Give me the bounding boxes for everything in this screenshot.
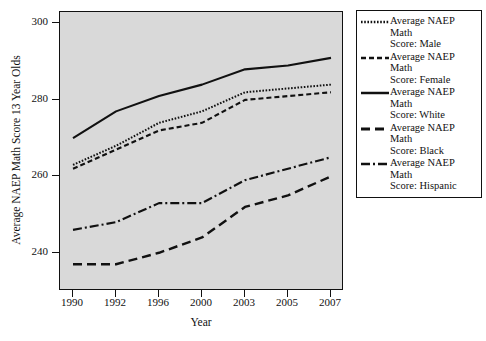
x-axis-title: Year xyxy=(59,316,343,328)
chart-figure: 240260280300 199019921996200020032005200… xyxy=(0,0,486,341)
legend-label-line2: Score: Male xyxy=(390,38,478,50)
legend-line-sample-icon xyxy=(360,15,390,28)
series-line-white xyxy=(73,58,331,138)
legend-label-line2: Score: Female xyxy=(390,74,478,86)
legend-item-female[interactable]: Average NAEP MathScore: Female xyxy=(360,51,478,86)
series-line-hispanic xyxy=(73,157,331,230)
legend-label-line1: Average NAEP Math xyxy=(390,122,478,145)
legend-item-male[interactable]: Average NAEP MathScore: Male xyxy=(360,15,478,50)
x-tick-label: 1990 xyxy=(49,297,95,308)
legend-label-line2: Score: White xyxy=(390,109,478,121)
legend-label-line1: Average NAEP Math xyxy=(390,86,478,109)
y-tick-mark xyxy=(52,252,59,253)
legend-item-white[interactable]: Average NAEP MathScore: White xyxy=(360,86,478,121)
legend-item-label: Average NAEP MathScore: Hispanic xyxy=(390,157,478,192)
y-tick-mark xyxy=(52,99,59,100)
x-tick-label: 1992 xyxy=(92,297,138,308)
y-tick-label: 300 xyxy=(14,16,48,27)
x-tick-label: 2005 xyxy=(264,297,310,308)
x-tick-label: 2007 xyxy=(307,297,353,308)
legend-label-line2: Score: Hispanic xyxy=(390,180,478,192)
series-line-female xyxy=(73,92,331,168)
y-tick-mark xyxy=(52,22,59,23)
legend-label-line1: Average NAEP Math xyxy=(390,15,478,38)
legend-line-sample-icon xyxy=(360,157,390,170)
legend-item-black[interactable]: Average NAEP MathScore: Black xyxy=(360,122,478,157)
x-tick-label: 1996 xyxy=(135,297,181,308)
legend-item-label: Average NAEP MathScore: White xyxy=(390,86,478,121)
legend-item-label: Average NAEP MathScore: Male xyxy=(390,15,478,50)
x-tick-label: 2003 xyxy=(221,297,267,308)
legend-item-hispanic[interactable]: Average NAEP MathScore: Hispanic xyxy=(360,157,478,192)
legend-label-line2: Score: Black xyxy=(390,145,478,157)
legend-label-line1: Average NAEP Math xyxy=(390,157,478,180)
plot-area xyxy=(59,11,343,290)
legend-line-sample-icon xyxy=(360,122,390,135)
legend-line-sample-icon xyxy=(360,86,390,99)
y-axis-title: Average NAEP Math Score 13 Year Olds xyxy=(10,30,22,270)
y-tick-mark xyxy=(52,175,59,176)
legend-item-label: Average NAEP MathScore: Black xyxy=(390,122,478,157)
x-tick-label: 2000 xyxy=(178,297,224,308)
plot-lines-svg xyxy=(60,12,344,291)
legend-item-label: Average NAEP MathScore: Female xyxy=(390,51,478,86)
series-line-black xyxy=(73,176,331,264)
legend-line-sample-icon xyxy=(360,51,390,64)
legend: Average NAEP MathScore: MaleAverage NAEP… xyxy=(356,10,482,198)
legend-label-line1: Average NAEP Math xyxy=(390,51,478,74)
